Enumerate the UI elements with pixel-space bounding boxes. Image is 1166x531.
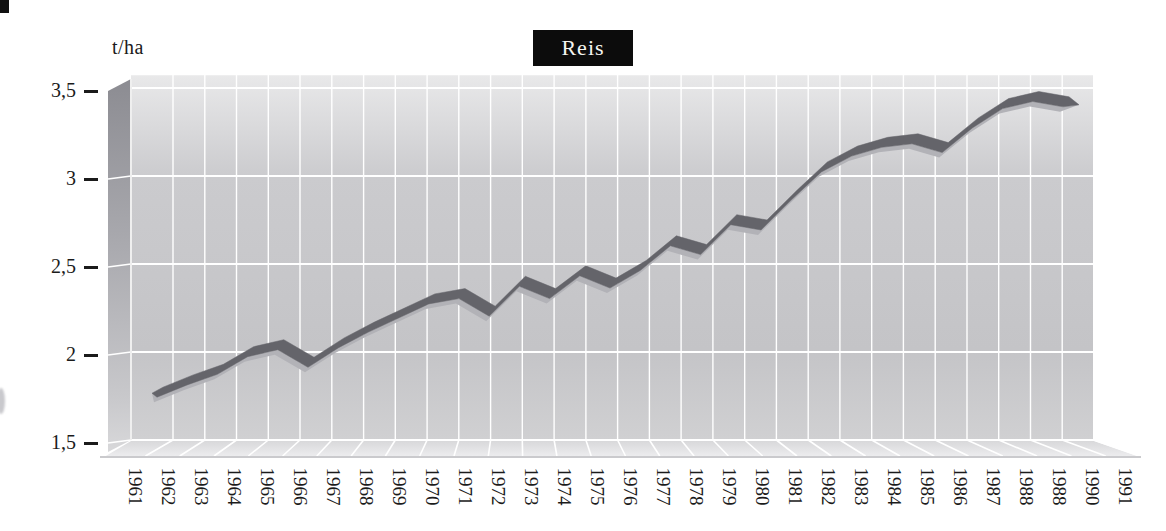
- x-tick-label: 1968: [357, 459, 376, 515]
- x-tick-label: 1991: [1116, 459, 1135, 515]
- x-tick-label: 1962: [159, 459, 178, 515]
- y-tick-label: 2,5: [14, 255, 76, 277]
- x-tick-label: 1973: [522, 459, 541, 515]
- x-tick-label: 1971: [456, 459, 475, 515]
- x-tick-label: 1978: [687, 459, 706, 515]
- x-tick-label: 1961: [126, 459, 145, 515]
- x-tick-label: 1987: [984, 459, 1003, 515]
- x-tick-label: 1969: [390, 459, 409, 515]
- x-tick-label: 1966: [291, 459, 310, 515]
- x-tick-label: 1984: [885, 459, 904, 515]
- x-tick-label: 1980: [753, 459, 772, 515]
- x-tick-label: 1976: [621, 459, 640, 515]
- y-tick-label: 3,5: [14, 79, 76, 101]
- x-tick-label: 1981: [786, 459, 805, 515]
- x-tick-label: 1990: [1083, 459, 1102, 515]
- x-tick-label: 1974: [555, 459, 574, 515]
- x-tick-label: 1965: [258, 459, 277, 515]
- x-tick-label: 1988: [1050, 459, 1069, 515]
- x-tick-label: 1979: [720, 459, 739, 515]
- x-tick-label: 1967: [324, 459, 343, 515]
- y-tick-mark: [84, 354, 98, 357]
- x-tick-label: 1983: [852, 459, 871, 515]
- x-tick-label: 1970: [423, 459, 442, 515]
- x-tick-label: 1964: [225, 459, 244, 515]
- x-tick-label: 1982: [819, 459, 838, 515]
- x-tick-label: 1972: [489, 459, 508, 515]
- x-tick-label: 1975: [588, 459, 607, 515]
- back-wall: [131, 74, 1094, 440]
- y-tick-label: 1,5: [14, 431, 76, 453]
- y-tick-mark: [84, 90, 98, 93]
- y-tick-mark: [84, 266, 98, 269]
- x-tick-label: 1977: [654, 459, 673, 515]
- y-tick-label: 2: [14, 343, 76, 365]
- y-tick-mark: [84, 178, 98, 181]
- y-tick-mark: [84, 442, 98, 445]
- chart-canvas: [0, 0, 1166, 531]
- chart-page: t/ha Reis 3,532,521,5 196119621963196419…: [0, 0, 1166, 531]
- x-tick-label: 1986: [951, 459, 970, 515]
- x-tick-label: 1988: [1017, 459, 1036, 515]
- x-tick-label: 1985: [918, 459, 937, 515]
- x-tick-label: 1963: [192, 459, 211, 515]
- y-tick-label: 3: [14, 167, 76, 189]
